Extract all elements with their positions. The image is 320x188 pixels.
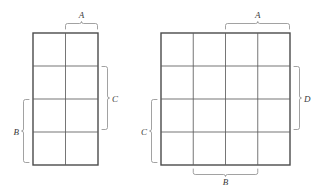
brace-A-top-label: A (254, 10, 261, 20)
brace-C-left-right-map: C (141, 100, 157, 163)
brace-A-top-label: A (78, 10, 85, 20)
brace-D-right-label: D (303, 94, 311, 104)
brace-C-left-path (150, 100, 158, 163)
figure-canvas: A C B (0, 0, 320, 188)
brace-C-left-label: C (141, 127, 148, 137)
brace-B-left-left-map: B (14, 100, 30, 163)
brace-D-right-right-map: D (294, 67, 311, 130)
brace-C-right-left-map: C (102, 67, 119, 130)
brace-B-bottom-label: B (223, 177, 229, 187)
brace-A-top-left-map: A (66, 10, 98, 29)
karnaugh-map-figure: A C B (0, 0, 320, 188)
brace-B-left-path (22, 100, 30, 163)
left-karnaugh-map: A C B (14, 10, 120, 165)
brace-A-top-right-map: A (226, 10, 290, 29)
brace-C-right-label: C (112, 94, 119, 104)
brace-A-top-path (66, 22, 98, 30)
brace-A-top-path (226, 22, 290, 30)
brace-B-left-label: B (14, 127, 20, 137)
brace-B-bottom-path (193, 169, 258, 177)
right-karnaugh-map: A D C B (141, 10, 311, 187)
brace-D-right-path (294, 67, 302, 130)
brace-C-right-path (102, 67, 110, 130)
brace-B-bottom-right-map: B (193, 169, 258, 187)
